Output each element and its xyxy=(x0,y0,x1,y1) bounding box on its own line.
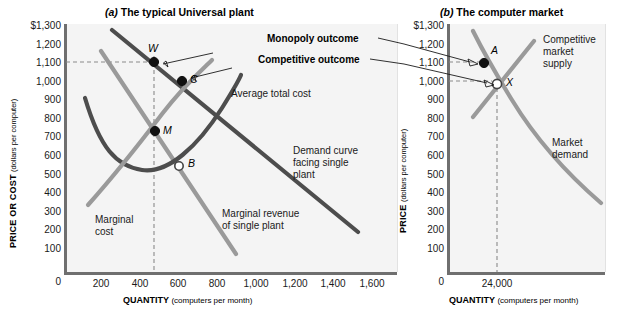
callout-leaders xyxy=(0,0,621,315)
economics-figure: (a) The typical Universal plant $1,300 1… xyxy=(0,0,621,315)
arrow-competitive-to-b xyxy=(484,80,494,87)
leader-monopoly-to-b xyxy=(378,38,470,62)
arrow-monopoly-to-b xyxy=(468,59,478,66)
